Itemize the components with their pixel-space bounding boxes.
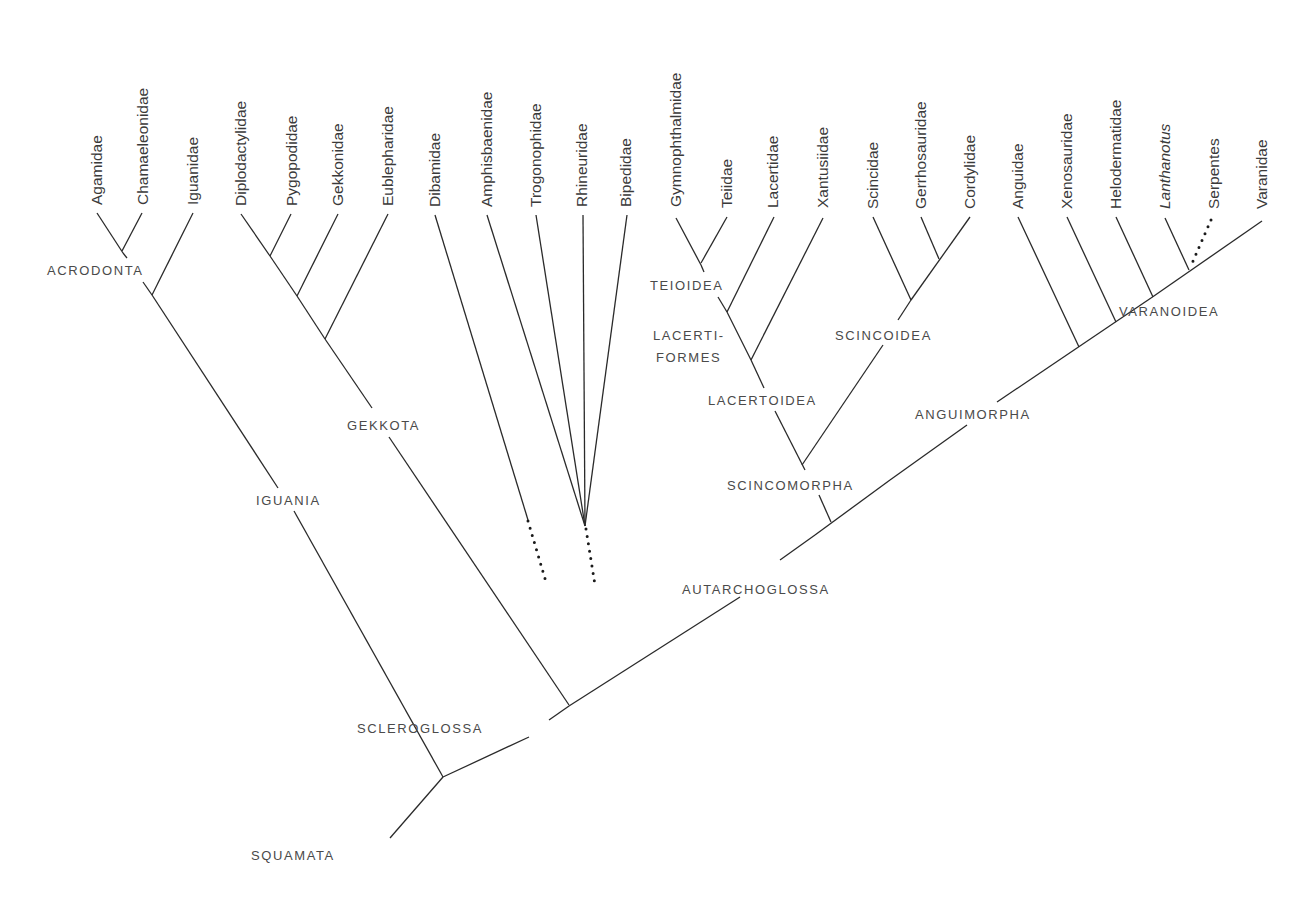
clade-label-acrodonta: ACRODONTA [47,263,144,278]
taxon-label-amphisbaenidae: Amphisbaenidae [478,92,495,207]
clade-label-gekkota: GEKKOTA [347,418,420,433]
branch-anguidae-stem [1018,217,1079,347]
branch-scleroglossa-lower [443,737,529,777]
branch-lacertoidea-stem [775,411,805,470]
branch-cordylidae-stem [911,217,970,300]
taxon-label-helodermatidae: Helodermatidae [1107,100,1124,209]
taxon-label-trogonophidae: Trogonophidae [527,103,544,207]
branch-teioidea-stem [718,297,727,312]
branch-lines [97,213,1262,838]
branch-gekkota-upper [325,339,372,408]
branch-varanidae-stem [1151,221,1262,298]
taxon-label-xantusiidae: Xantusiidae [814,127,831,208]
branch-helodermatidae-stem [1116,217,1153,297]
taxon-label-anguidae: Anguidae [1009,143,1026,209]
branch-rhineuridae-stem [583,215,585,526]
clade-label-varanoidea: VARANOIDEA [1119,304,1219,319]
branch-iguania-lower [294,511,443,777]
branch-gekkota-a [270,256,297,296]
branch-scleroglossa-upper [549,706,569,720]
taxon-label-gymnophthalmidae: Gymnophthalmidae [667,73,684,207]
dotted-branch-amphisbaenia-dotted [586,529,595,585]
branch-lanthanotus-stem [1165,218,1189,270]
taxon-label-xenosauridae: Xenosauridae [1058,113,1075,209]
branch-iguanidae-stem [152,213,193,295]
dotted-branch-dibamidae-dotted [528,521,546,582]
clade-label-autarchoglossa: AUTARCHOGLOSSA [682,582,830,597]
branch-scincomorpha-stem [819,495,831,522]
clade-label-lacertiformes_1: LACERTI- [653,328,725,343]
taxon-label-diplodactylidae: Diplodactylidae [232,101,249,206]
branch-amphisbaenidae-stem [487,215,585,526]
clade-label-anguimorpha: ANGUIMORPHA [915,407,1031,422]
taxon-label-serpentes: Serpentes [1205,138,1222,209]
taxon-label-dibamidae: Dibamidae [426,133,443,207]
branch-trogonophidae-stem [536,215,585,526]
dotted-branch-serpentes-dotted [1190,220,1211,268]
taxon-label-bipedidae: Bipedidae [617,138,634,207]
branch-xenosauridae-stem [1067,217,1116,322]
branch-pygopodidae-stem [270,214,291,256]
branch-gymnophthalmidae-stem [676,218,701,265]
taxon-label-eublepharidae: Eublepharidae [379,106,396,206]
clade-label-scincomorpha: SCINCOMORPHA [727,478,854,493]
taxon-label-cordylidae: Cordylidae [961,135,978,209]
branch-iguania-upper [152,295,278,488]
branch-gekkonidae-stem [297,214,338,296]
branch-chamaeleonidae-stem [122,213,142,251]
branch-dibamidae-stem [435,215,528,520]
branch-acrodonta-stem [123,253,127,258]
branch-teioidea-stem-top [701,265,704,272]
branch-bipedidae-stem [585,215,627,526]
taxon-label-lanthanotus: Lanthanotus [1156,123,1173,209]
branch-diplodactylidae-stem [241,214,270,256]
clade-label-scleroglossa: SCLEROGLOSSA [357,721,483,736]
branch-xantusiidae-stem [751,218,823,360]
branch-teiidae-stem [701,217,727,263]
clade-label-scincoidea: SCINCOIDEA [835,328,932,343]
taxon-labels: AgamidaeChamaeleonidaeIguanidaeDiplodact… [88,73,1270,209]
branch-anguimorpha-lower [890,425,967,480]
clade-label-squamata: SQUAMATA [251,848,335,863]
clade-label-iguania: IGUANIA [256,493,321,508]
branch-scincidae-stem [873,217,911,300]
taxon-label-pygopodidae: Pygopodidae [283,116,300,207]
branch-lacertiformes-lower [751,360,764,388]
branch-anguimorpha-upper [997,325,1111,402]
branch-agamidae-stem [97,213,123,253]
branch-lacertidae-stem [727,217,774,312]
taxon-label-agamidae: Agamidae [88,135,105,205]
taxon-label-iguanidae: Iguanidae [184,137,201,205]
branch-gerrhosauridae-stem [921,217,939,259]
clade-labels: ACRODONTAIGUANIAGEKKOTATEIOIDEALACERTI-F… [47,263,1219,863]
branch-autarchoglossa-stem [569,597,740,706]
branch-scincoidea-top [898,300,911,320]
taxon-label-teiidae: Teiidae [718,159,735,208]
phylogeny-diagram: AgamidaeChamaeleonidaeIguanidaeDiplodact… [0,0,1311,901]
branch-acrodonta-stem-lower [143,282,152,295]
branch-eublepharidae-stem [325,214,388,339]
taxon-label-rhineuridae: Rhineuridae [573,123,590,207]
branch-lacertiformes-stem [727,312,751,360]
clade-label-lacertoidea: LACERTOIDEA [708,393,817,408]
taxon-label-gekkonidae: Gekkonidae [329,123,346,206]
clade-label-teioidea: TEIOIDEA [650,278,723,293]
branch-gekkota-b [297,296,325,339]
taxon-label-varanidae: Varanidae [1253,139,1270,209]
branch-autarchoglossa-lower [780,535,815,560]
dotted-branch-lines [528,220,1211,585]
taxon-label-scincidae: Scincidae [864,142,881,209]
branch-squamata-stem [390,777,443,838]
taxon-label-chamaeleonidae: Chamaeleonidae [134,88,151,205]
taxon-label-gerrhosauridae: Gerrhosauridae [912,101,929,209]
clade-label-lacertiformes_2: FORMES [656,350,721,365]
taxon-label-lacertidae: Lacertidae [764,136,781,208]
